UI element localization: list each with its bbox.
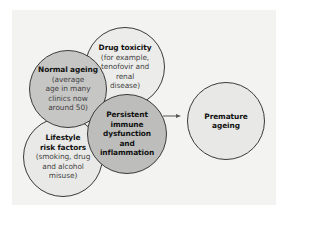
- node-normal-ageing-sub-1: (average: [52, 75, 84, 85]
- node-lifestyle-sub-1: (smoking, drug: [36, 152, 91, 162]
- node-drug-toxicity-sub-1: (for example,: [101, 53, 149, 63]
- node-normal-ageing-title: Normal ageing: [38, 65, 98, 75]
- node-persistent-immune-dysfunction: Persistent immune dysfunction and inflam…: [87, 94, 167, 174]
- node-normal-ageing-sub-2: age in many: [46, 84, 91, 94]
- node-lifestyle-title-1: Lifestyle: [46, 133, 81, 143]
- node-lifestyle-sub-3: misuse): [49, 171, 77, 181]
- node-persistent-title-5: inflammation: [100, 148, 154, 158]
- node-premature-ageing: Premature ageing: [187, 82, 265, 160]
- node-lifestyle-title-2: risk factors: [40, 143, 86, 153]
- node-drug-toxicity-sub-2: tenofovir and: [101, 62, 149, 72]
- node-normal-ageing-sub-4: around 50): [48, 103, 88, 113]
- node-persistent-title-2: immune: [111, 120, 144, 130]
- node-drug-toxicity-title: Drug toxicity: [99, 43, 152, 53]
- node-drug-toxicity-sub-3: renal: [116, 72, 134, 82]
- node-normal-ageing-sub-3: clinics now: [48, 94, 87, 104]
- node-persistent-title-1: Persistent: [106, 110, 148, 120]
- arrow-right-icon: [163, 114, 181, 118]
- node-lifestyle-sub-2: and alcohol: [42, 162, 84, 172]
- node-premature-title-2: ageing: [212, 121, 240, 131]
- node-persistent-title-4: and: [119, 139, 134, 149]
- node-premature-title-1: Premature: [204, 112, 247, 122]
- node-persistent-title-3: dysfunction: [103, 129, 151, 139]
- node-drug-toxicity-sub-4: disease): [110, 81, 140, 91]
